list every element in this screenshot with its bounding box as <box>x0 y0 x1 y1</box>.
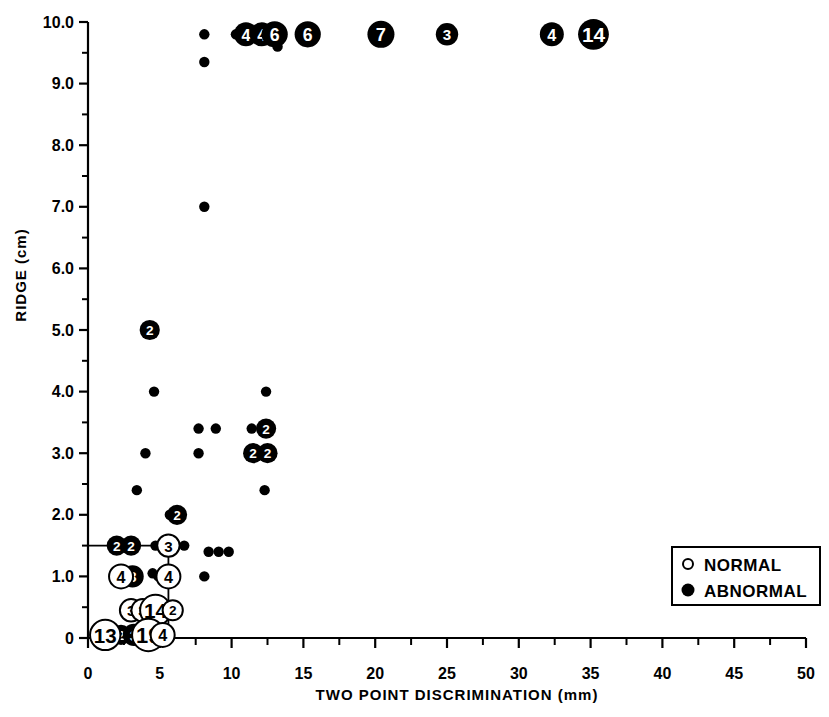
marker-count-label: 13 <box>94 624 117 647</box>
data-point-abnormal <box>272 41 282 51</box>
data-point-abnormal <box>193 448 203 458</box>
marker-count-label: 2 <box>262 422 270 437</box>
data-point-abnormal <box>199 202 209 212</box>
marker-filled-circle <box>247 423 257 433</box>
y-axis-title: RIDGE (cm) <box>12 228 29 321</box>
y-tick-label: 4.0 <box>52 383 74 400</box>
data-point-abnormal: 6 <box>295 21 321 47</box>
marker-filled-circle <box>140 448 150 458</box>
x-tick-label: 45 <box>725 665 743 682</box>
marker-count-label: 2 <box>127 539 135 554</box>
data-point-abnormal: 2 <box>256 418 276 438</box>
x-tick-label: 35 <box>582 665 600 682</box>
data-point-abnormal <box>132 485 142 495</box>
y-tick-label: 6.0 <box>52 260 74 277</box>
marker-filled-circle <box>203 547 213 557</box>
data-point-abnormal: 3 <box>436 23 458 45</box>
x-tick-label: 0 <box>84 665 93 682</box>
y-tick-label: 1.0 <box>52 568 74 585</box>
data-point-abnormal <box>224 547 234 557</box>
marker-count-label: 7 <box>376 24 386 45</box>
x-tick-label: 25 <box>438 665 456 682</box>
legend-marker-open-circle <box>683 559 693 569</box>
marker-filled-circle <box>259 485 269 495</box>
marker-count-label: 2 <box>146 323 154 338</box>
marker-filled-circle <box>199 29 209 39</box>
y-tick-label: 10.0 <box>43 14 74 31</box>
data-point-abnormal <box>211 423 221 433</box>
marker-count-label: 4 <box>158 626 167 644</box>
plot-canvas: 01.02.03.04.05.06.07.08.09.010.005101520… <box>0 0 829 717</box>
y-tick-label: 2.0 <box>52 506 74 523</box>
marker-count-label: 4 <box>164 568 173 586</box>
x-tick-label: 40 <box>654 665 672 682</box>
marker-filled-circle <box>272 41 282 51</box>
data-point-abnormal <box>140 448 150 458</box>
marker-count-label: 2 <box>169 603 177 618</box>
marker-count-label: 2 <box>264 446 272 461</box>
marker-count-label: 3 <box>443 26 451 43</box>
data-point-abnormal: 7 <box>367 21 394 48</box>
marker-filled-circle <box>149 386 159 396</box>
marker-filled-circle <box>165 510 175 520</box>
y-tick-label: 5.0 <box>52 322 74 339</box>
data-point-normal: 13 <box>90 620 120 650</box>
marker-count-label: 4 <box>547 26 556 44</box>
marker-filled-circle <box>211 423 221 433</box>
legend-item-label: ABNORMAL <box>704 582 807 601</box>
data-point-normal: 3 <box>157 534 179 556</box>
scatter-plot-figure: 01.02.03.04.05.06.07.08.09.010.005101520… <box>0 0 829 717</box>
marker-filled-circle <box>199 571 209 581</box>
marker-count-label: 6 <box>303 25 313 45</box>
marker-filled-circle <box>224 547 234 557</box>
y-tick-label: 0 <box>65 630 74 647</box>
data-point-abnormal <box>165 510 175 520</box>
marker-filled-circle <box>213 547 223 557</box>
x-tick-label: 20 <box>366 665 384 682</box>
x-axis-title: TWO POINT DISCRIMINATION (mm) <box>316 686 599 703</box>
marker-count-label: 4 <box>241 26 250 44</box>
x-tick-label: 10 <box>223 665 241 682</box>
marker-filled-circle <box>132 485 142 495</box>
marker-filled-circle <box>193 448 203 458</box>
y-tick-label: 8.0 <box>52 137 74 154</box>
y-tick-label: 9.0 <box>52 75 74 92</box>
data-point-abnormal <box>213 547 223 557</box>
data-point-normal: 2 <box>163 600 183 620</box>
data-point-abnormal <box>203 547 213 557</box>
x-tick-label: 30 <box>510 665 528 682</box>
data-point-abnormal: 14 <box>578 19 609 50</box>
legend-marker-filled-circle <box>682 584 695 597</box>
data-point-abnormal <box>193 423 203 433</box>
y-tick-label: 3.0 <box>52 445 74 462</box>
x-tick-label: 50 <box>797 665 815 682</box>
x-tick-label: 15 <box>295 665 313 682</box>
y-tick-label: 7.0 <box>52 198 74 215</box>
data-point-abnormal <box>199 571 209 581</box>
marker-count-label: 2 <box>249 446 257 461</box>
data-point-abnormal <box>261 386 271 396</box>
data-point-normal: 4 <box>156 564 180 588</box>
data-point-abnormal <box>259 485 269 495</box>
data-point-abnormal <box>149 386 159 396</box>
data-point-normal: 4 <box>109 564 133 588</box>
marker-filled-circle <box>261 386 271 396</box>
marker-filled-circle <box>199 202 209 212</box>
marker-count-label: 2 <box>113 539 121 554</box>
legend-item-label: NORMAL <box>704 556 782 575</box>
marker-count-label: 3 <box>164 538 172 555</box>
marker-filled-circle <box>199 57 209 67</box>
marker-count-label: 14 <box>582 23 606 46</box>
data-point-abnormal: 2 <box>257 443 277 463</box>
data-point-abnormal: 4 <box>540 22 564 46</box>
data-point-abnormal <box>199 57 209 67</box>
x-tick-label: 5 <box>155 665 164 682</box>
marker-count-label: 4 <box>117 568 126 586</box>
data-point-abnormal: 2 <box>121 536 141 556</box>
data-point-normal: 4 <box>151 623 175 647</box>
data-point-abnormal: 2 <box>140 320 160 340</box>
marker-filled-circle <box>193 423 203 433</box>
data-point-abnormal <box>199 29 209 39</box>
data-point-abnormal <box>247 423 257 433</box>
